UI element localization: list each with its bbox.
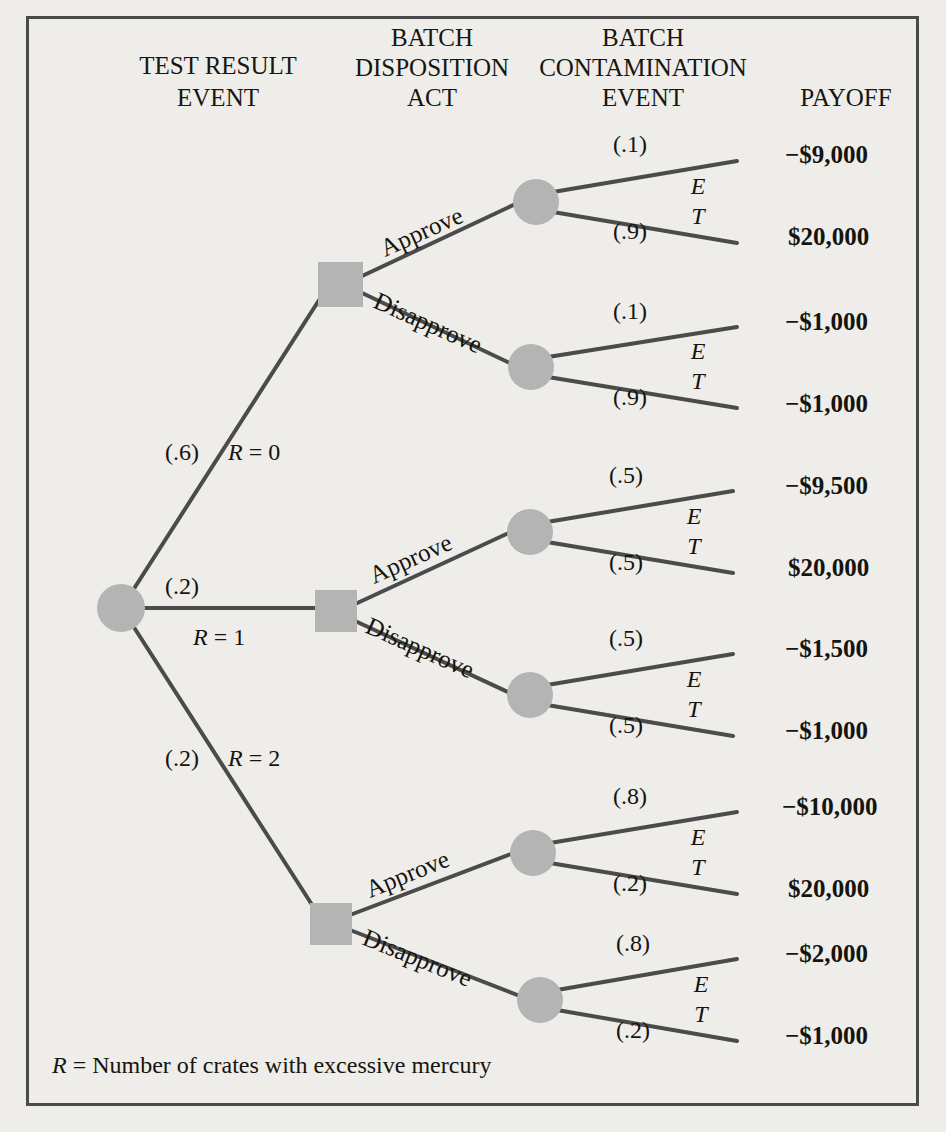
- payoff-t-disapprove-r2: −$1,000: [785, 1022, 868, 1049]
- event-label-e-disapprove-r2: E: [693, 971, 709, 997]
- prob-e-disapprove-r0: (.1): [613, 298, 647, 324]
- header-test-result-line1: TEST RESULT: [139, 52, 297, 79]
- root-branch-labels: (.6) R = 0 (.2) R = 1 (.2) R = 2: [165, 439, 280, 771]
- branch-e-disapprove-r0: [548, 327, 737, 357]
- prob-t-disapprove-r2: (.2): [616, 1017, 650, 1043]
- prob-r1: (.2): [165, 573, 199, 599]
- prob-e-approve-r2: (.8): [613, 783, 647, 809]
- decision-node-r2[interactable]: [310, 903, 352, 945]
- footnote-symbol: R: [51, 1052, 67, 1078]
- event-label-e-approve-r0: E: [690, 173, 706, 199]
- header-batch-disposition-line1: BATCH: [391, 24, 473, 51]
- prob-t-disapprove-r1: (.5): [609, 712, 643, 738]
- label-r1: R = 1: [192, 624, 245, 650]
- payoff-t-disapprove-r1: −$1,000: [785, 717, 868, 744]
- event-label-e-approve-r1: E: [686, 503, 702, 529]
- payoff-t-disapprove-r0: −$1,000: [785, 390, 868, 417]
- prob-t-approve-r2: (.2): [613, 870, 647, 896]
- payoff-t-approve-r0: $20,000: [788, 223, 869, 250]
- figure-page: TEST RESULT EVENT BATCH DISPOSITION ACT …: [0, 0, 946, 1132]
- decision-node-r1[interactable]: [315, 590, 357, 632]
- event-label-t-approve-r1: T: [687, 533, 702, 559]
- prob-e-approve-r1: (.5): [609, 462, 643, 488]
- chance-node-disapprove-r0[interactable]: [508, 344, 554, 390]
- label-r2: R = 2: [227, 745, 280, 771]
- group-r0: Approve Disapprove (.1) (.9) E T −$9,000…: [318, 131, 869, 417]
- prob-e-disapprove-r2: (.8): [616, 930, 650, 956]
- header-batch-contamination-line1: BATCH: [602, 24, 684, 51]
- chance-node-approve-r0[interactable]: [513, 179, 559, 225]
- column-headers: TEST RESULT EVENT BATCH DISPOSITION ACT …: [139, 24, 891, 111]
- chance-node-approve-r2[interactable]: [510, 830, 556, 876]
- event-label-e-approve-r2: E: [690, 824, 706, 850]
- chance-node-disapprove-r1[interactable]: [507, 672, 553, 718]
- payoff-t-approve-r2: $20,000: [788, 875, 869, 902]
- act-label-disapprove-r2: Disapprove: [359, 924, 476, 992]
- chance-node-disapprove-r2[interactable]: [517, 977, 563, 1023]
- header-batch-contamination-line2: CONTAMINATION: [539, 54, 747, 81]
- decision-tree-svg: TEST RESULT EVENT BATCH DISPOSITION ACT …: [0, 0, 946, 1132]
- prob-e-disapprove-r1: (.5): [609, 625, 643, 651]
- branch-e-disapprove-r1: [547, 654, 733, 685]
- header-test-result-line2: EVENT: [177, 84, 259, 111]
- event-label-t-disapprove-r1: T: [687, 696, 702, 722]
- branch-e-disapprove-r2: [557, 959, 737, 990]
- decision-node-r0[interactable]: [318, 262, 363, 307]
- chance-node-root[interactable]: [97, 584, 145, 632]
- payoff-e-disapprove-r2: −$2,000: [785, 940, 868, 967]
- prob-r0: (.6): [165, 439, 199, 465]
- event-label-e-disapprove-r1: E: [686, 666, 702, 692]
- branch-e-approve-r0: [553, 161, 737, 192]
- prob-t-approve-r1: (.5): [609, 549, 643, 575]
- payoff-e-approve-r1: −$9,500: [785, 472, 868, 499]
- payoff-e-approve-r0: −$9,000: [785, 141, 868, 168]
- act-label-approve-r0: Approve: [376, 201, 467, 261]
- group-r2: Approve Disapprove (.8) (.2) E T −$10,00…: [310, 783, 878, 1049]
- prob-t-approve-r0: (.9): [613, 218, 647, 244]
- group-r1: Approve Disapprove (.5) (.5) E T −$9,500…: [315, 462, 869, 744]
- event-label-t-disapprove-r0: T: [691, 368, 706, 394]
- footnote-definition: R = Number of crates with excessive merc…: [51, 1052, 491, 1078]
- footnote-text: = Number of crates with excessive mercur…: [67, 1052, 492, 1078]
- prob-e-approve-r0: (.1): [613, 131, 647, 157]
- label-r0: R = 0: [227, 439, 280, 465]
- payoff-t-approve-r1: $20,000: [788, 554, 869, 581]
- header-batch-contamination-line3: EVENT: [602, 84, 684, 111]
- chance-node-approve-r1[interactable]: [507, 509, 553, 555]
- root-branches: [128, 283, 330, 925]
- header-payoff: PAYOFF: [800, 84, 891, 111]
- header-batch-disposition-line2: DISPOSITION: [355, 54, 509, 81]
- branch-e-approve-r1: [547, 491, 733, 522]
- payoff-e-disapprove-r0: −$1,000: [785, 308, 868, 335]
- branch-e-approve-r2: [550, 812, 737, 843]
- event-label-t-approve-r0: T: [691, 203, 706, 229]
- event-label-e-disapprove-r0: E: [690, 338, 706, 364]
- act-label-disapprove-r1: Disapprove: [362, 612, 478, 684]
- branch-r2: [128, 618, 325, 925]
- header-batch-disposition-line3: ACT: [407, 84, 457, 111]
- prob-r2: (.2): [165, 745, 199, 771]
- payoff-e-approve-r2: −$10,000: [782, 793, 878, 820]
- payoff-e-disapprove-r1: −$1,500: [785, 635, 868, 662]
- prob-t-disapprove-r0: (.9): [613, 384, 647, 410]
- act-label-disapprove-r0: Disapprove: [370, 287, 486, 359]
- event-label-t-disapprove-r2: T: [694, 1001, 709, 1027]
- event-label-t-approve-r2: T: [691, 854, 706, 880]
